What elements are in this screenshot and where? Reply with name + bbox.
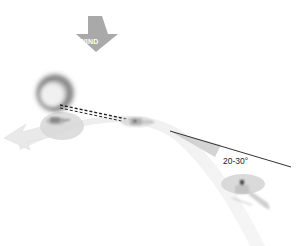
wind-arrow — [76, 16, 118, 52]
fire-smoke — [33, 71, 77, 115]
diagram-svg — [0, 0, 303, 246]
angle-label: 20-30° — [223, 156, 248, 166]
drop-shadow — [40, 112, 84, 140]
diagram-canvas: WIND 20-30° — [0, 0, 303, 246]
wind-label: WIND — [79, 38, 98, 45]
